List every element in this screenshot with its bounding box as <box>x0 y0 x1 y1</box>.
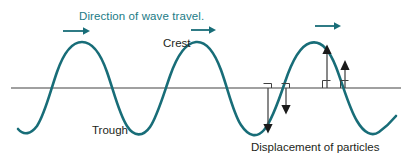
trough-label: Trough <box>92 125 128 137</box>
travel-arrow-3 <box>315 22 341 30</box>
displacement-of-particles-label: Displacement of particles <box>251 142 379 154</box>
direction-of-travel-label: Direction of wave travel. <box>79 11 204 23</box>
wave-diagram-figure: Direction of wave travel. Crest Trough D… <box>0 0 412 162</box>
travel-arrow-2 <box>191 26 216 34</box>
crest-label: Crest <box>163 38 190 50</box>
displacement-arrow-up-long <box>322 45 331 89</box>
travel-arrow-1 <box>63 27 90 35</box>
wave-diagram-canvas <box>0 0 412 162</box>
displacement-arrow-down-long <box>263 84 272 134</box>
